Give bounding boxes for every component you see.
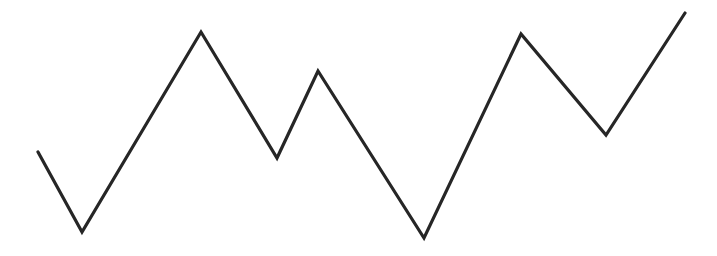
drawing-canvas [0, 0, 717, 256]
zigzag-line-chart [0, 0, 717, 256]
